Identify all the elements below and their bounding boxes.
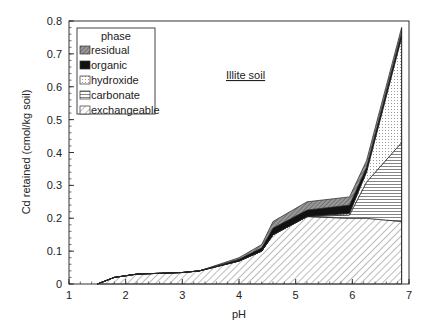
y-tick-label: 0.2	[47, 212, 62, 224]
y-axis-title: Cd retained (cmol/kg soil)	[20, 90, 32, 215]
carbonate-swatch-icon	[80, 91, 90, 99]
exchangeable-swatch-icon	[80, 106, 90, 114]
x-tick-label: 4	[236, 289, 242, 301]
x-tick-label: 2	[123, 289, 129, 301]
svg-text:carbonate: carbonate	[91, 89, 140, 101]
y-tick-label: 0.3	[47, 179, 62, 191]
x-axis-title: pH	[232, 308, 246, 320]
stacked-area-chart: 00.10.20.30.40.50.60.70.8 1234567 pH Cd …	[0, 0, 430, 333]
x-tick-label: 7	[406, 289, 412, 301]
y-tick-label: 0.1	[47, 245, 62, 257]
y-tick-label: 0.4	[47, 147, 62, 159]
hydroxide-swatch-icon	[80, 76, 90, 84]
legend-item-hydroxide: hydroxide	[80, 74, 139, 86]
x-tick-label: 6	[349, 289, 355, 301]
x-tick-label: 1	[66, 289, 72, 301]
svg-text:residual: residual	[91, 44, 130, 56]
legend-item-carbonate: carbonate	[80, 89, 140, 101]
y-tick-label: 0.6	[47, 81, 62, 93]
svg-text:exchangeable: exchangeable	[91, 104, 160, 116]
svg-text:organic: organic	[91, 59, 128, 71]
y-tick-label: 0.7	[47, 48, 62, 60]
residual-swatch-icon	[80, 46, 90, 54]
x-tick-label: 5	[293, 289, 299, 301]
legend-item-organic: organic	[80, 59, 128, 71]
legend-item-exchangeable: exchangeable	[80, 104, 160, 116]
chart-annotation: Illite soil	[226, 69, 265, 81]
y-tick-label: 0.5	[47, 114, 62, 126]
legend: phase residualorganichydroxidecarbonatee…	[77, 28, 160, 116]
y-tick-label: 0	[56, 278, 62, 290]
organic-swatch-icon	[80, 61, 90, 69]
y-axis: 00.10.20.30.40.50.60.70.8	[47, 15, 74, 290]
x-tick-label: 3	[179, 289, 185, 301]
y-tick-label: 0.8	[47, 15, 62, 27]
svg-text:hydroxide: hydroxide	[91, 74, 139, 86]
legend-item-residual: residual	[80, 44, 130, 56]
legend-title: phase	[101, 30, 131, 42]
